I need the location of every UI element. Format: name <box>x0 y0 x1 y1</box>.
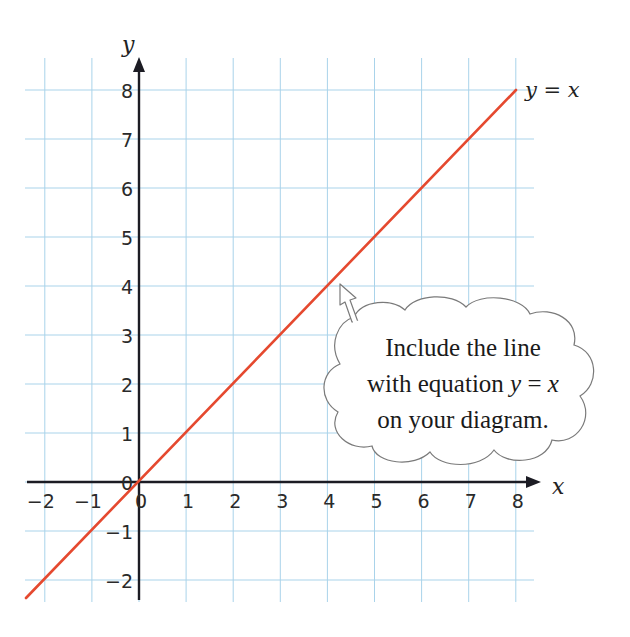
callout-line-3: on your diagram. <box>377 406 548 433</box>
x-tick-label: 3 <box>276 490 288 512</box>
y-tick-label: 2 <box>121 374 133 396</box>
callout-line-2-prefix: with equation <box>367 370 510 397</box>
x-tick-label: 8 <box>512 490 524 512</box>
y-axis-arrow-icon <box>133 57 145 72</box>
y-tick-label: 3 <box>121 325 133 347</box>
callout-line-1: Include the line <box>385 334 541 361</box>
x-tick-label: 0 <box>135 490 147 512</box>
line-label-eq: = <box>537 78 568 102</box>
y-tick-label: 5 <box>121 227 133 249</box>
x-tick-label: 4 <box>323 490 335 512</box>
x-tick-label: 2 <box>229 490 241 512</box>
callout-line-2: with equation y = x <box>367 370 559 397</box>
callout-pointer-arrow-icon <box>340 284 358 322</box>
x-axis-arrow-icon <box>526 476 541 488</box>
x-tick-label: −2 <box>27 490 55 512</box>
x-tick-label: −1 <box>74 490 102 512</box>
y-tick-label: 1 <box>121 423 133 445</box>
callout-eq: = <box>521 370 548 397</box>
y-tick-label: −1 <box>105 521 133 543</box>
x-tick-label: 7 <box>465 490 477 512</box>
x-axis-label: x <box>552 474 565 499</box>
y-tick-label: 4 <box>121 276 133 298</box>
callout-var-x: x <box>547 370 559 397</box>
callout-var-y: y <box>507 370 522 397</box>
callout-cloud: Include the line with equation y = x on … <box>324 284 594 465</box>
x-tick-label: 6 <box>418 490 430 512</box>
y-axis-label: y <box>121 32 135 57</box>
chart: y x −2−1012345678−2−1012345678 y = x Inc… <box>0 0 630 637</box>
y-tick-label: 7 <box>121 129 133 151</box>
y-tick-label: 8 <box>121 80 133 102</box>
line-label: y = x <box>524 78 580 102</box>
y-tick-label: −2 <box>105 570 133 592</box>
x-tick-label: 5 <box>370 490 382 512</box>
line-label-rhs: x <box>568 78 580 102</box>
x-tick-label: 1 <box>182 490 194 512</box>
y-tick-label: 6 <box>121 178 133 200</box>
